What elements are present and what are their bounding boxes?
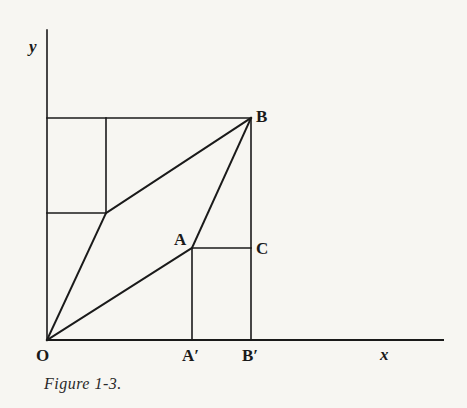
figure-caption: Figure 1-3. (44, 375, 122, 393)
x-axis-label: x (380, 346, 389, 363)
point-c-label: C (256, 240, 268, 257)
point-b-prime-label: B′ (242, 347, 258, 364)
vector-addition-diagram (0, 0, 467, 408)
point-a-prime-label: A′ (182, 347, 199, 364)
point-b-label: B (256, 108, 267, 125)
y-axis-label: y (29, 38, 37, 55)
origin-label: O (36, 347, 49, 364)
point-a-label: A (174, 231, 186, 248)
